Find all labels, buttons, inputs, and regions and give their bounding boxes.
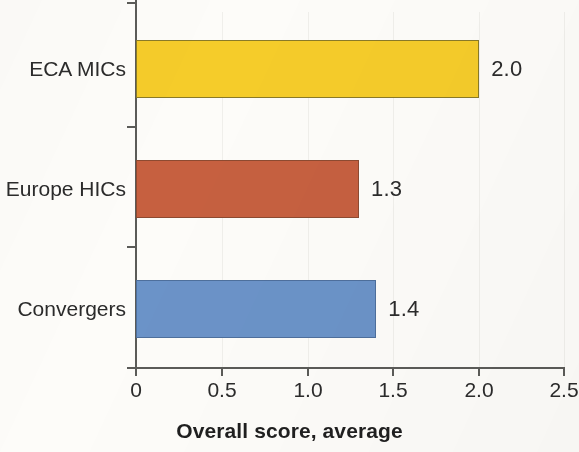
bar-chart-figure: ECA MICs Europe HICs Convergers 2.0 1.3 … [0, 0, 579, 452]
x-axis-tick-0.5 [221, 368, 223, 376]
y-axis-tick-1 [127, 126, 136, 128]
x-axis-title: Overall score, average [0, 419, 579, 443]
x-tick-label-2.5: 2.5 [549, 378, 578, 402]
x-tick-label-0.5: 0.5 [207, 378, 236, 402]
bar-value-convergers: 1.4 [388, 296, 419, 322]
x-axis-line [135, 367, 565, 369]
y-axis-tick-2 [127, 246, 136, 248]
category-label-eca-mics: ECA MICs [0, 57, 126, 81]
category-label-europe-hics: Europe HICs [0, 177, 126, 201]
plot-area: 2.0 1.3 1.4 0 0.5 1.0 1.5 2.0 2.5 [136, 12, 565, 368]
gridline-2.5 [564, 12, 565, 368]
bar-convergers[interactable] [136, 280, 376, 338]
category-label-convergers: Convergers [0, 297, 126, 321]
y-axis-tick-top [127, 2, 136, 4]
bar-eca-mics[interactable] [136, 40, 479, 98]
x-tick-label-0: 0 [130, 378, 142, 402]
x-axis-tick-1.0 [307, 368, 309, 376]
x-axis-tick-2.0 [478, 368, 480, 376]
x-tick-label-2.0: 2.0 [464, 378, 493, 402]
x-axis-tick-1.5 [392, 368, 394, 376]
bar-value-europe-hics: 1.3 [371, 176, 402, 202]
x-tick-label-1.5: 1.5 [378, 378, 407, 402]
bar-value-eca-mics: 2.0 [491, 56, 522, 82]
x-axis-tick-0 [135, 368, 137, 376]
x-tick-label-1.0: 1.0 [293, 378, 322, 402]
bar-europe-hics[interactable] [136, 160, 359, 218]
x-axis-tick-2.5 [563, 368, 565, 376]
